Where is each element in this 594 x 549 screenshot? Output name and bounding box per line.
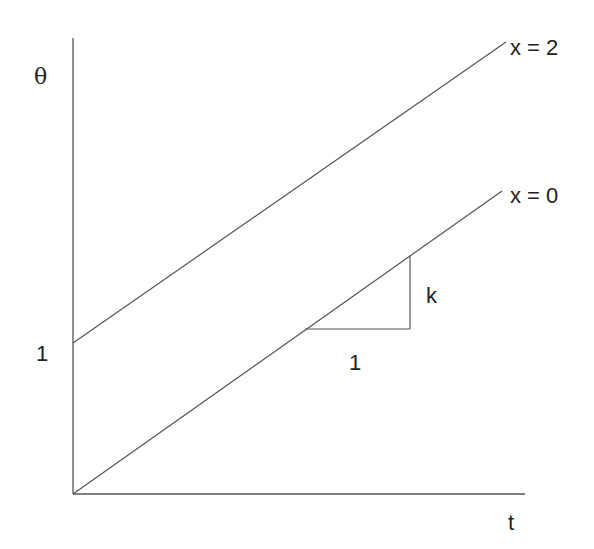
- y-axis-label: θ: [34, 66, 47, 88]
- rise-label: k: [426, 285, 437, 307]
- intercept-label: 1: [36, 343, 48, 365]
- line-x-0: [73, 191, 502, 494]
- plot-svg: [0, 0, 594, 549]
- run-label: 1: [349, 352, 361, 374]
- line-x-2: [73, 42, 506, 343]
- diagram-canvas: θ t 1 x = 2 x = 0 k 1: [0, 0, 594, 549]
- line-label-x-2: x = 2: [510, 37, 558, 59]
- line-label-x-0: x = 0: [510, 185, 558, 207]
- x-axis-label: t: [508, 512, 514, 534]
